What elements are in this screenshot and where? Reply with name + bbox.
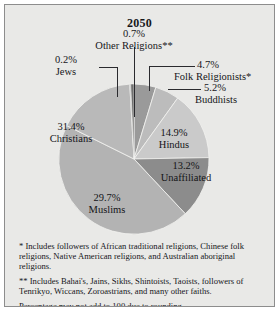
footnote-single-star: * Includes followers of African traditio… <box>19 241 265 271</box>
label-muslims-pct: 29.7% <box>67 192 147 204</box>
label-hindus-pct: 14.9% <box>141 127 207 139</box>
label-christians-name: Christians <box>31 133 111 145</box>
label-jews: 0.2% Jews <box>37 54 95 77</box>
label-folk-religionists-name: Folk Religionists* <box>174 71 251 83</box>
label-buddhists-pct: 5.2% <box>204 82 237 94</box>
footnote-rounding: Percentage may not add to 100 due to rou… <box>19 301 265 307</box>
label-other-religions-name: Other Religions** <box>34 40 234 52</box>
label-folk-religionists-pct: 4.7% <box>197 59 251 71</box>
label-muslims-name: Muslims <box>67 204 147 216</box>
label-christians: 31.4% Christians <box>31 121 111 144</box>
label-hindus-name: Hindus <box>141 139 207 151</box>
label-other-religions: 0.7% Other Religions** <box>34 28 234 51</box>
label-christians-pct: 31.4% <box>31 121 111 133</box>
footnotes: * Includes followers of African traditio… <box>19 241 265 307</box>
label-hindus: 14.9% Hindus <box>141 127 207 150</box>
label-folk-religionists: 4.7% Folk Religionists* <box>197 59 251 82</box>
chart-card: 2050 <box>4 4 275 307</box>
label-buddhists: 5.2% Buddhists <box>204 82 237 105</box>
label-unaffiliated-pct: 13.2% <box>146 160 226 172</box>
footnote-double-star: ** Includes Bahai's, Jains, Sikhs, Shint… <box>19 276 265 296</box>
label-jews-pct: 0.2% <box>37 54 95 66</box>
label-muslims: 29.7% Muslims <box>67 192 147 215</box>
label-unaffiliated: 13.2% Unaffiliated <box>146 160 226 183</box>
label-buddhists-name: Buddhists <box>195 94 237 106</box>
label-other-religions-pct: 0.7% <box>34 28 234 40</box>
label-jews-name: Jews <box>37 66 95 78</box>
label-unaffiliated-name: Unaffiliated <box>146 172 226 184</box>
